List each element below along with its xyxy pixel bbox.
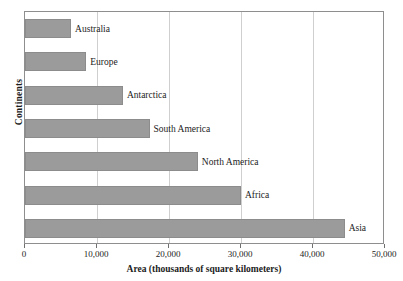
bar-label-europe: Europe [86, 57, 117, 67]
bar-antarctica [25, 86, 123, 105]
bar-label-north-america: North America [198, 157, 259, 167]
bar-row: South America [25, 119, 383, 138]
tick-mark [168, 244, 169, 248]
plot-area: AustraliaEuropeAntarcticaSouth AmericaNo… [24, 11, 384, 244]
bar-row: Africa [25, 186, 383, 205]
tick-mark [240, 244, 241, 248]
bar-label-south-america: South America [150, 124, 211, 134]
bars-layer: AustraliaEuropeAntarcticaSouth AmericaNo… [25, 12, 383, 243]
tick-mark [24, 244, 25, 248]
bar-label-africa: Africa [241, 190, 269, 200]
tick-label: 40,000 [300, 249, 325, 259]
bar-australia [25, 19, 71, 38]
tick-label: 30,000 [228, 249, 253, 259]
bar-label-antarctica: Antarctica [123, 90, 167, 100]
bar-africa [25, 186, 241, 205]
x-axis-tick-labels: 010,00020,00030,00040,00050,000 [24, 249, 384, 263]
bar-asia [25, 219, 345, 238]
bar-label-asia: Asia [345, 223, 366, 233]
tick-label: 20,000 [156, 249, 181, 259]
tick-label: 0 [22, 249, 27, 259]
tick-label: 10,000 [84, 249, 109, 259]
bar-south-america [25, 119, 150, 138]
bar-row: Antarctica [25, 86, 383, 105]
tick-mark [312, 244, 313, 248]
bar-europe [25, 52, 86, 71]
tick-mark [384, 244, 385, 248]
bar-chart: Continents AustraliaEuropeAntarcticaSout… [0, 0, 403, 281]
tick-mark [96, 244, 97, 248]
bar-label-australia: Australia [71, 24, 110, 34]
bar-north-america [25, 152, 198, 171]
bar-row: North America [25, 152, 383, 171]
x-axis-title: Area (thousands of square kilometers) [24, 264, 384, 274]
bar-row: Australia [25, 19, 383, 38]
bar-row: Europe [25, 52, 383, 71]
tick-label: 50,000 [372, 249, 397, 259]
bar-row: Asia [25, 219, 383, 238]
y-axis-title: Continents [14, 47, 24, 157]
